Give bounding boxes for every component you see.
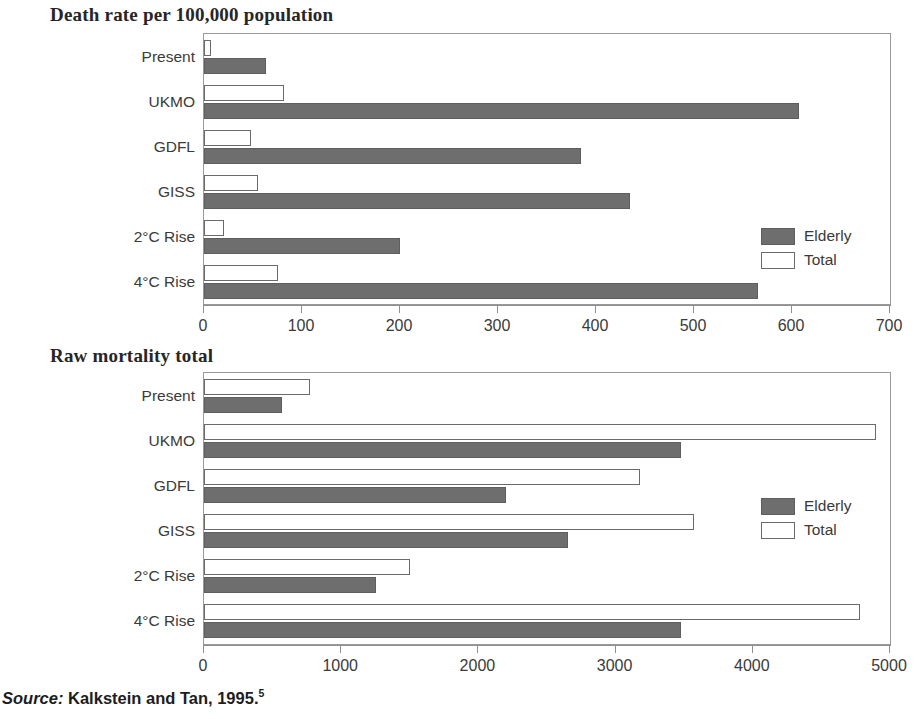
source-citation: Kalkstein and Tan, 1995.: [68, 689, 258, 707]
x-axis-tick: [752, 645, 753, 653]
bar-total: [204, 220, 224, 236]
x-axis-tick: [791, 305, 792, 313]
legend-label-elderly: Elderly: [804, 497, 851, 515]
bar-elderly: [204, 532, 568, 548]
x-axis-tick: [203, 305, 204, 313]
x-axis-tick: [615, 645, 616, 653]
source-note: Source: Kalkstein and Tan, 1995.5: [2, 687, 264, 708]
chart-1-x-axis: 0100200300400500600700: [203, 305, 891, 306]
x-axis-tick-label: 400: [582, 317, 609, 335]
source-footnote-marker: 5: [258, 687, 264, 699]
chart-2-title: Raw mortality total: [50, 345, 213, 367]
y-axis-label-ukmo: UKMO: [149, 93, 196, 111]
y-axis-label-4-c-rise: 4°C Rise: [134, 273, 195, 291]
x-axis-tick-label: 0: [199, 657, 208, 675]
x-axis-tick-label: 0: [199, 317, 208, 335]
bar-elderly: [204, 193, 630, 209]
x-axis-tick: [301, 305, 302, 313]
chart-2-legend: Elderly Total: [761, 494, 851, 542]
bar-total: [204, 469, 640, 485]
bar-group-present: Present: [204, 34, 890, 79]
x-axis-tick-label: 1000: [322, 657, 358, 675]
x-axis-tick: [889, 645, 890, 653]
x-axis-tick-label: 4000: [734, 657, 770, 675]
y-axis-label-gdfl: GDFL: [154, 138, 195, 156]
legend-entry-elderly: Elderly: [761, 494, 851, 518]
y-axis-label-giss: GISS: [158, 522, 195, 540]
y-axis-label-giss: GISS: [158, 183, 195, 201]
bar-group-4-c-rise: 4°C Rise: [204, 599, 890, 644]
chart-2-x-axis: 010002000300040005000: [203, 645, 891, 646]
y-axis-label-2-c-rise: 2°C Rise: [134, 228, 195, 246]
chart-1-legend: Elderly Total: [761, 224, 851, 272]
x-axis-tick: [340, 645, 341, 653]
bar-group-present: Present: [204, 373, 890, 418]
legend-entry-elderly: Elderly: [761, 224, 851, 248]
x-axis-tick-label: 300: [484, 317, 511, 335]
x-axis-tick: [693, 305, 694, 313]
bar-total: [204, 85, 284, 101]
x-axis-tick: [203, 645, 204, 653]
x-axis-tick: [477, 645, 478, 653]
y-axis-label-4-c-rise: 4°C Rise: [134, 612, 195, 630]
legend-swatch-elderly-icon: [761, 498, 795, 515]
legend-swatch-elderly-icon: [761, 228, 795, 245]
x-axis-tick: [595, 305, 596, 313]
bar-total: [204, 514, 694, 530]
legend-swatch-total-icon: [761, 522, 795, 539]
bar-elderly: [204, 577, 376, 593]
bar-elderly: [204, 58, 266, 74]
bar-group-giss: GISS: [204, 169, 890, 214]
bar-group-2-c-rise: 2°C Rise: [204, 554, 890, 599]
bar-total: [204, 130, 251, 146]
bar-elderly: [204, 442, 681, 458]
bar-elderly: [204, 622, 681, 638]
x-axis-tick: [497, 305, 498, 313]
bar-total: [204, 175, 258, 191]
bar-elderly: [204, 487, 506, 503]
y-axis-label-2-c-rise: 2°C Rise: [134, 567, 195, 585]
bar-total: [204, 559, 410, 575]
y-axis-label-present: Present: [142, 387, 195, 405]
bar-elderly: [204, 397, 282, 413]
bar-total: [204, 379, 310, 395]
bar-group-ukmo: UKMO: [204, 418, 890, 463]
x-axis-tick-label: 3000: [597, 657, 633, 675]
legend-entry-total: Total: [761, 248, 851, 272]
legend-swatch-total-icon: [761, 252, 795, 269]
legend-label-elderly: Elderly: [804, 227, 851, 245]
bar-total: [204, 265, 278, 281]
x-axis-tick-label: 2000: [460, 657, 496, 675]
source-prefix: Source:: [2, 689, 63, 707]
x-axis-tick-label: 700: [876, 317, 903, 335]
legend-entry-total: Total: [761, 518, 851, 542]
figure-container: Death rate per 100,000 population Presen…: [0, 0, 914, 719]
x-axis-tick-label: 100: [288, 317, 315, 335]
x-axis-tick: [399, 305, 400, 313]
bar-total: [204, 424, 876, 440]
legend-label-total: Total: [804, 251, 837, 269]
x-axis-tick-label: 500: [680, 317, 707, 335]
y-axis-label-ukmo: UKMO: [149, 432, 196, 450]
y-axis-label-present: Present: [142, 48, 195, 66]
bar-elderly: [204, 238, 400, 254]
bar-group-gdfl: GDFL: [204, 124, 890, 169]
x-axis-tick-label: 600: [778, 317, 805, 335]
x-axis-tick-label: 5000: [871, 657, 907, 675]
bar-group-ukmo: UKMO: [204, 79, 890, 124]
bar-elderly: [204, 283, 758, 299]
x-axis-tick: [889, 305, 890, 313]
chart-1-title: Death rate per 100,000 population: [50, 4, 333, 26]
bar-elderly: [204, 148, 581, 164]
legend-label-total: Total: [804, 521, 837, 539]
y-axis-label-gdfl: GDFL: [154, 477, 195, 495]
bar-elderly: [204, 103, 799, 119]
x-axis-tick-label: 200: [386, 317, 413, 335]
bar-total: [204, 40, 211, 56]
bar-total: [204, 604, 860, 620]
